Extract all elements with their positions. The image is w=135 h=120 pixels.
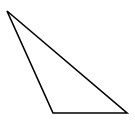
triangle-shape (7, 11, 127, 113)
diagram-canvas (0, 0, 135, 120)
